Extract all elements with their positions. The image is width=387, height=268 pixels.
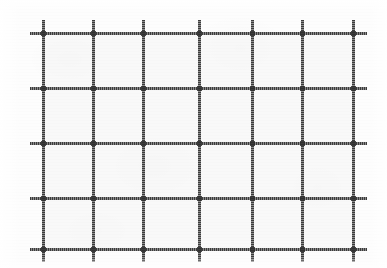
grid-intersection-r4-c6 [300,196,305,201]
grid-intersection-r1-c3 [141,31,146,36]
grid-intersection-r5-c6 [300,247,305,252]
grid-intersection-r4-c3 [141,196,146,201]
grid-intersection-r2-c4 [197,86,202,91]
grid-intersection-r5-c4 [197,247,202,252]
grid-intersection-r1-c4 [197,31,202,36]
grid-intersection-r4-c1 [41,196,46,201]
grid-intersection-r3-c2 [91,141,96,146]
grid-intersection-r3-c6 [300,141,305,146]
grid-intersection-r5-c5 [250,247,255,252]
grid-intersection-r5-c2 [91,247,96,252]
grid-intersection-r5-c1 [41,247,46,252]
grid-intersection-r1-c1 [41,31,46,36]
grid-intersection-r4-c2 [91,196,96,201]
grid-intersection-r1-c6 [300,31,305,36]
grid-intersection-r1-c7 [351,31,356,36]
grid-intersection-r5-c3 [141,247,146,252]
grid-intersection-r2-c3 [141,86,146,91]
grid-intersection-r3-c5 [250,141,255,146]
grid-intersection-r5-c7 [351,247,356,252]
grid-intersection-r4-c7 [351,196,356,201]
grid-intersection-r2-c7 [351,86,356,91]
grid-intersection-r3-c4 [197,141,202,146]
grid-intersection-r1-c5 [250,31,255,36]
grid-intersection-r2-c1 [41,86,46,91]
grid-intersection-r3-c3 [141,141,146,146]
grid-intersection-r2-c2 [91,86,96,91]
grid-intersection-r3-c7 [351,141,356,146]
grid-intersection-r2-c6 [300,86,305,91]
grid-intersection-r1-c2 [91,31,96,36]
grid-intersection-r2-c5 [250,86,255,91]
grid-intersection-r3-c1 [41,141,46,146]
grid-intersection-r4-c5 [250,196,255,201]
grid-line-layer [0,0,387,268]
grid-intersection-r4-c4 [197,196,202,201]
grid-figure [0,0,387,268]
